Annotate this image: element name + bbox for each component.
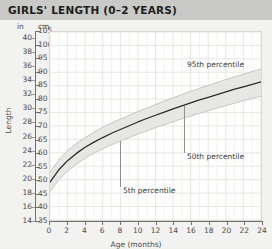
- x-tick-mark: [191, 221, 192, 225]
- chart-figure: in cm Length 141618202224262830323436384…: [0, 20, 272, 236]
- x-axis-title: Age (months): [0, 240, 272, 249]
- y-tick-mark-cm: [35, 112, 40, 113]
- x-tick-mark: [244, 221, 245, 225]
- y-tick-mark-in: [31, 207, 35, 208]
- x-tick-mark: [262, 221, 263, 225]
- annotation-label: 50th percentile: [187, 152, 244, 161]
- y-tick-label-in: 30: [14, 104, 32, 112]
- annotation-label: 5th percentile: [123, 186, 175, 195]
- annotation-leader-line: [120, 141, 121, 187]
- y-tick-mark-in: [31, 151, 35, 152]
- x-tick-mark: [102, 221, 103, 225]
- y-tick-mark-cm: [35, 207, 40, 208]
- card-header: GIRLS' LENGTH (0–2 YEARS): [0, 0, 272, 20]
- y-tick-mark-cm: [35, 140, 40, 141]
- y-tick-label-in: 38: [14, 48, 32, 56]
- y-tick-label-in: 24: [14, 147, 32, 155]
- y-tick-mark-cm: [35, 126, 40, 127]
- unit-label-inches: in: [17, 22, 24, 31]
- y-tick-label-in: 32: [14, 90, 32, 98]
- y-tick-mark-in: [31, 38, 35, 39]
- x-tick-mark: [85, 221, 86, 225]
- y-tick-mark-cm: [35, 180, 40, 181]
- y-tick-mark-in: [31, 179, 35, 180]
- y-tick-label-in: 16: [14, 203, 32, 211]
- y-tick-label-in: 20: [14, 175, 32, 183]
- y-tick-label-in: 26: [14, 133, 32, 141]
- y-axis-title: Length: [4, 99, 13, 143]
- y-tick-label-in: 22: [14, 161, 32, 169]
- y-tick-mark-in: [31, 80, 35, 81]
- y-tick-label-in: 28: [14, 118, 32, 126]
- page-title: GIRLS' LENGTH (0–2 YEARS): [8, 4, 177, 16]
- percentile-band: [50, 69, 261, 191]
- y-tick-label-in: 34: [14, 76, 32, 84]
- x-tick-mark: [227, 221, 228, 225]
- annotation-leader-line: [184, 106, 185, 153]
- y-tick-mark-in: [31, 122, 35, 123]
- y-tick-label-in: 18: [14, 189, 32, 197]
- y-tick-label-in: 36: [14, 62, 32, 70]
- y-tick-label-in: 40: [14, 34, 32, 42]
- y-tick-mark-cm: [35, 85, 40, 86]
- y-tick-mark-in: [31, 221, 35, 222]
- y-tick-mark-cm: [35, 167, 40, 168]
- y-tick-mark-cm: [35, 72, 40, 73]
- y-tick-mark-in: [31, 165, 35, 166]
- y-tick-mark-in: [31, 94, 35, 95]
- annotation-label: 95th percentile: [187, 60, 244, 69]
- y-tick-mark-in: [31, 52, 35, 53]
- x-tick-mark: [49, 221, 50, 225]
- x-tick-label: 24: [252, 226, 272, 235]
- y-tick-mark-cm: [35, 45, 40, 46]
- x-tick-mark: [120, 221, 121, 225]
- y-tick-mark-in: [31, 137, 35, 138]
- y-tick-label-in: 14: [14, 217, 32, 225]
- y-tick-mark-cm: [35, 221, 40, 222]
- y-tick-mark-cm: [35, 153, 40, 154]
- x-tick-mark: [67, 221, 68, 225]
- y-tick-mark-cm: [35, 99, 40, 100]
- y-tick-mark-in: [31, 193, 35, 194]
- y-tick-mark-cm: [35, 31, 40, 32]
- x-tick-mark: [173, 221, 174, 225]
- y-tick-mark-cm: [35, 194, 40, 195]
- x-tick-mark: [156, 221, 157, 225]
- y-axis-inch-labels: 1416182022242628303234363840: [14, 31, 32, 221]
- x-tick-mark: [209, 221, 210, 225]
- x-tick-mark: [138, 221, 139, 225]
- y-tick-mark-cm: [35, 58, 40, 59]
- y-tick-mark-in: [31, 66, 35, 67]
- y-tick-mark-in: [31, 108, 35, 109]
